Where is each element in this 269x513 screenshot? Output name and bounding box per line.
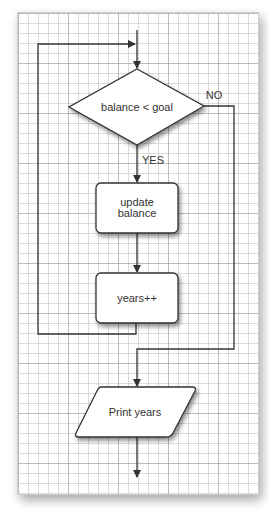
print-label: Print years [85,405,185,419]
increment-label: years++ [96,291,178,305]
no-branch-arrow [137,106,234,386]
decision-label: balance < goal [87,100,187,114]
update-label-line2: balance [96,206,178,220]
no-label: NO [204,88,224,102]
flowchart-canvas [0,0,269,513]
yes-label: YES [141,153,165,167]
